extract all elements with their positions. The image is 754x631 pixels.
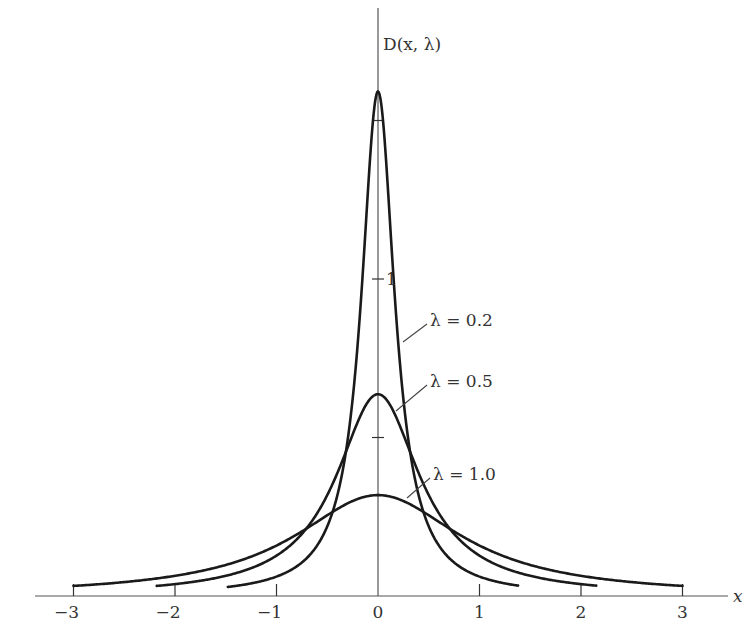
curve-lambda-05 — [157, 394, 597, 586]
x-ticks: −3−2−10123 — [54, 584, 688, 622]
curve-lambda-02 — [228, 91, 518, 586]
x-tick-label: 0 — [373, 602, 384, 622]
y-tick-label-1: 1 — [386, 269, 397, 289]
label-lambda-10: λ = 1.0 — [433, 464, 496, 484]
x-axis-label: x — [733, 586, 743, 606]
x-tick-label: 1 — [474, 602, 485, 622]
leader-lambda-05 — [396, 385, 427, 411]
leader-lambda-02 — [403, 324, 427, 342]
x-tick-label: −1 — [257, 602, 282, 622]
x-tick-label: 2 — [576, 602, 587, 622]
chart: −3−2−10123 D(x, λ) x 1 λ = 0.2 λ = 0.5 λ… — [0, 0, 754, 631]
y-axis-label: D(x, λ) — [383, 34, 441, 54]
label-lambda-02: λ = 0.2 — [430, 310, 493, 330]
label-lambda-05: λ = 0.5 — [430, 371, 493, 391]
x-tick-label: −3 — [54, 602, 79, 622]
x-tick-label: −2 — [155, 602, 180, 622]
x-tick-label: 3 — [677, 602, 688, 622]
